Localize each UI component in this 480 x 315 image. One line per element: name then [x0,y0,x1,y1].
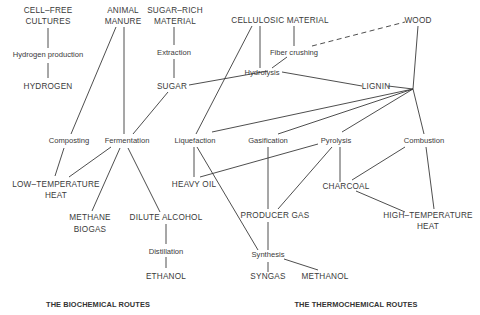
biomass-conversion-diagram: CELL–FREE CULTURES Hydrogen production H… [0,0,480,315]
node-hydrogen: HYDROGEN [24,82,73,91]
section-biochemical-routes: THE BIOCHEMICAL ROUTES [46,300,150,309]
node-extraction: Extraction [157,48,191,57]
edge-fermentation-lowheat [69,147,111,177]
node-animal-manure-line1: ANIMAL [107,6,139,15]
edge-synthesis-methanol [284,259,318,270]
node-high-temp-heat-line1: HIGH–TEMPERATURE [383,211,473,220]
node-hydrogen-production: Hydrogen production [13,50,84,59]
edge-pyrolysis-producergas [278,147,332,209]
node-animal-manure-line2: MANURE [105,17,142,26]
section-labels: THE BIOCHEMICAL ROUTES THE THERMOCHEMICA… [46,300,417,309]
node-combustion: Combustion [404,136,445,145]
node-methane-biogas-line2: BIOGAS [74,225,107,234]
node-wood: WOOD [404,16,431,25]
node-heavy-oil: HEAVY OIL [172,180,217,189]
edge-composting-lowheat [55,148,64,176]
node-high-temp-heat-line2: HEAT [417,222,439,231]
node-cellulosic-material: CELLULOSIC MATERIAL [231,16,329,25]
node-pyrolysis: Pyrolysis [321,136,352,145]
edge-pyrolysis-heavyoil [200,144,318,177]
edges [48,22,434,272]
edge-cellulosic-liquefaction [196,26,252,134]
node-methane-biogas-line1: METHANE [69,213,111,222]
edge-lignin-liquefaction [212,89,413,132]
edge-sugar-fermentation [133,92,168,134]
node-gasification: Gasification [248,136,288,145]
node-liquefaction: Liquefaction [175,136,216,145]
node-fiber-crushing: Fiber crushing [270,48,318,57]
edge-fibercrushing-hydrolysis [272,57,287,68]
node-ethanol: ETHANOL [146,272,186,281]
node-cell-free-cultures-line2: CULTURES [25,17,70,26]
edge-combustion-hightemp [426,147,434,209]
node-lignin: LIGNIN [362,82,391,91]
node-producer-gas: PRODUCER GAS [241,211,310,220]
edge-fibercrushing-wood [312,22,405,46]
edge-combustion-charcoal [352,147,405,180]
node-distillation: Distillation [149,247,184,256]
edge-lignin-gasification [278,89,413,134]
edge-manure-composting [71,27,116,134]
edge-hub-combustion [413,89,424,134]
node-methanol: METHANOL [301,272,348,281]
node-synthesis: Synthesis [252,250,285,259]
node-sugar-rich-line2: MATERIAL [154,17,196,26]
edge-lignin-pyrolysis [342,89,413,132]
edge-fermentation-alcohol [128,148,160,212]
node-composting: Composting [49,136,90,145]
edge-hydrolysis-lignin [282,72,362,86]
edge-liquefaction-synthesis [197,147,258,250]
node-hydrolysis: Hydrolysis [244,68,279,77]
node-low-temp-heat-line2: HEAT [45,191,67,200]
node-sugar: SUGAR [157,82,187,91]
edge-wood-combustion [413,26,418,89]
node-low-temp-heat-line1: LOW–TEMPERATURE [12,180,100,189]
nodes: CELL–FREE CULTURES Hydrogen production H… [12,6,473,281]
edge-lignin-hub [388,86,413,89]
section-thermochemical-routes: THE THERMOCHEMICAL ROUTES [294,300,417,309]
node-dilute-alcohol: DILUTE ALCOHOL [130,213,203,222]
node-cell-free-cultures-line1: CELL–FREE [24,6,73,15]
node-syngas: SYNGAS [250,272,286,281]
node-sugar-rich-line1: SUGAR–RICH [147,6,203,15]
edge-charcoal-hightemp [356,191,405,212]
node-charcoal: CHARCOAL [322,182,369,191]
node-fermentation: Fermentation [105,136,150,145]
